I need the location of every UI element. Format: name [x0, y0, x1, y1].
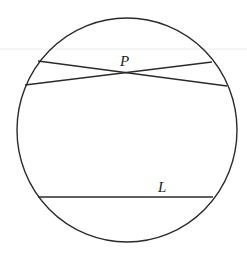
geometry-diagram: P L [0, 0, 247, 257]
circle [17, 18, 237, 242]
chord-through-p-descending [38, 61, 227, 86]
point-p-label: P [119, 53, 129, 69]
chord-through-p-ascending [25, 62, 212, 85]
line-l-label: L [157, 179, 166, 195]
